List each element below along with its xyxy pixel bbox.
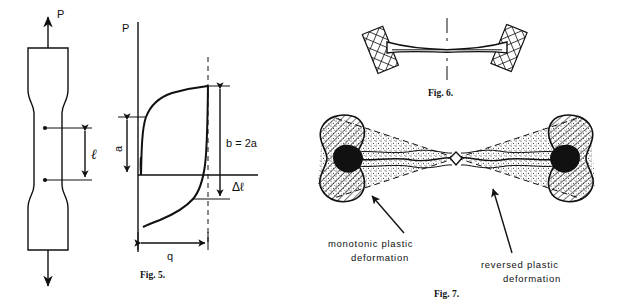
specimen-outline [28, 48, 68, 250]
leader-reversed [493, 189, 512, 253]
gauge-length-label: ℓ [91, 147, 97, 162]
loop-upper-branch [141, 86, 208, 175]
figure-6-gripped-specimen: Fig. 6. [362, 18, 527, 98]
gauge-length-dimension [45, 128, 92, 180]
y-axis-label: P [122, 22, 129, 34]
tensile-specimen-figure: P ℓ [28, 8, 97, 286]
figure-7-plastic-zone: monotonic plastic deformation reversed p… [318, 115, 595, 299]
leader-monotonic [372, 196, 404, 233]
sheet-specimen [387, 42, 507, 53]
annotation-monotonic-line2: deformation [351, 252, 409, 263]
annotation-reversed-line2: deformation [503, 273, 561, 284]
x-axis-label: Δℓ [232, 180, 244, 194]
load-label-top: P [57, 8, 64, 20]
deflection-range-label-q: q [167, 250, 173, 262]
deflection-range-dimension-q [138, 232, 208, 250]
loop-lower-branch [143, 86, 208, 227]
figure-plate: P ℓ P Δℓ [0, 0, 627, 308]
total-range-dimension-b [193, 86, 230, 199]
figure-7-caption: Fig. 7. [434, 289, 459, 299]
annotation-monotonic-line1: monotonic plastic [328, 238, 413, 249]
annotation-reversed-line1: reversed plastic [481, 259, 559, 270]
amplitude-label-a: a [112, 145, 124, 152]
crack-centre-diamond [450, 152, 462, 165]
figure-5-hysteresis-chart: P Δℓ a b = 2a q Fig. [112, 22, 258, 280]
figure-6-caption: Fig. 6. [428, 88, 453, 98]
total-range-label-b: b = 2a [226, 137, 258, 149]
figure-5-caption: Fig. 5. [140, 270, 165, 280]
